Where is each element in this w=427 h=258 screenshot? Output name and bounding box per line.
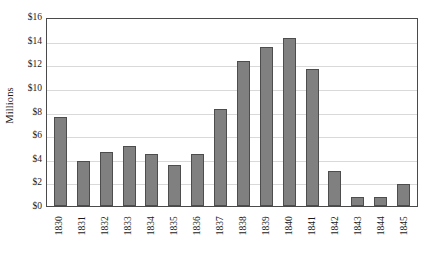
x-axis-tick-label: 1845 [400, 216, 410, 235]
x-axis-tick-label: 1834 [147, 216, 157, 235]
bar-slot [49, 19, 72, 206]
bar-slot [186, 19, 209, 206]
x-tick-slot: 1839 [255, 208, 278, 256]
y-axis-tick-label: $0 [33, 202, 43, 212]
bar-1839[interactable] [260, 47, 273, 206]
y-axis-tick-label: $6 [33, 131, 43, 141]
bar-1830[interactable] [54, 117, 67, 206]
bars-layer [47, 19, 417, 206]
x-tick-slot: 1841 [301, 208, 324, 256]
y-axis-tick-labels: $0$2$4$6$8$10$12$14$16 [16, 12, 44, 213]
bar-slot [209, 19, 232, 206]
x-axis-tick-label: 1840 [285, 216, 295, 235]
x-tick-slot: 1840 [278, 208, 301, 256]
x-tick-slot: 1838 [232, 208, 255, 256]
x-tick-slot: 1833 [117, 208, 140, 256]
x-tick-slot: 1843 [347, 208, 370, 256]
x-axis-tick-label: 1835 [170, 216, 180, 235]
x-axis-tick-label: 1830 [55, 216, 65, 235]
bar-1840[interactable] [283, 38, 296, 206]
bar-1836[interactable] [191, 154, 204, 206]
bar-1834[interactable] [145, 154, 158, 206]
x-axis-tick-label: 1839 [262, 216, 272, 235]
bar-1841[interactable] [306, 69, 319, 206]
y-axis-tick-label: $14 [28, 37, 42, 47]
y-axis-tick-label: $12 [28, 61, 42, 71]
bar-1835[interactable] [168, 165, 181, 206]
bar-slot [118, 19, 141, 206]
bar-1837[interactable] [214, 109, 227, 206]
bar-1842[interactable] [328, 171, 341, 206]
bar-slot [392, 19, 415, 206]
bar-slot [232, 19, 255, 206]
x-tick-slot: 1842 [324, 208, 347, 256]
bar-1845[interactable] [397, 184, 410, 206]
bar-slot [369, 19, 392, 206]
x-axis-tick-labels: 1830183118321833183418351836183718381839… [46, 208, 418, 256]
x-axis-tick-label: 1832 [101, 216, 111, 235]
y-axis-tick-label: $4 [33, 155, 43, 165]
bar-1831[interactable] [77, 161, 90, 206]
x-tick-slot: 1834 [140, 208, 163, 256]
bar-slot [95, 19, 118, 206]
bar-slot [346, 19, 369, 206]
x-tick-slot: 1832 [94, 208, 117, 256]
y-axis-tick-label: $10 [28, 84, 42, 94]
y-axis-tick-label: $2 [33, 179, 43, 189]
x-tick-slot: 1837 [209, 208, 232, 256]
x-tick-slot: 1831 [71, 208, 94, 256]
x-axis-tick-label: 1838 [239, 216, 249, 235]
x-axis-tick-label: 1831 [78, 216, 88, 235]
bar-1843[interactable] [351, 197, 364, 206]
bar-slot [301, 19, 324, 206]
bar-1838[interactable] [237, 61, 250, 206]
x-axis-tick-label: 1836 [193, 216, 203, 235]
bar-1832[interactable] [100, 152, 113, 206]
bar-1833[interactable] [123, 146, 136, 206]
x-axis-tick-label: 1841 [308, 216, 318, 235]
y-axis-tick-label: $16 [28, 13, 42, 23]
x-tick-slot: 1845 [393, 208, 416, 256]
bar-slot [255, 19, 278, 206]
bar-slot [163, 19, 186, 206]
x-axis-tick-label: 1837 [216, 216, 226, 235]
bar-1844[interactable] [374, 197, 387, 206]
x-axis-tick-label: 1842 [331, 216, 341, 235]
x-axis-tick-label: 1844 [377, 216, 387, 235]
y-axis-tick-label: $8 [33, 108, 43, 118]
x-tick-slot: 1835 [163, 208, 186, 256]
bar-chart-figure: Millions $0$2$4$6$8$10$12$14$16 18301831… [0, 0, 427, 258]
x-tick-slot: 1836 [186, 208, 209, 256]
plot-area [46, 18, 418, 207]
x-axis-tick-label: 1843 [354, 216, 364, 235]
bar-slot [72, 19, 95, 206]
x-axis-tick-label: 1833 [124, 216, 134, 235]
bar-slot [324, 19, 347, 206]
x-tick-slot: 1844 [370, 208, 393, 256]
x-tick-slot: 1830 [48, 208, 71, 256]
y-axis-title-label: Millions [4, 87, 15, 123]
bar-slot [278, 19, 301, 206]
bar-slot [141, 19, 164, 206]
